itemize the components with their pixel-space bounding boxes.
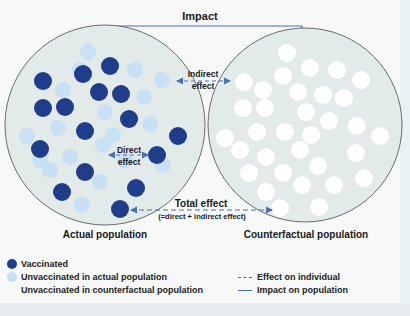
legend-unvaccinated-counterfactual-label: Unvaccinated in counterfactual populatio…	[21, 285, 203, 295]
direct-effect-label-line1: Direct	[117, 145, 141, 155]
actual-population-label: Actual population	[63, 229, 147, 240]
unvaccinated-counterfactual-swatch-icon	[7, 285, 17, 295]
legend-unvaccinated-actual: Unvaccinated in actual population	[7, 272, 167, 282]
legend-effect-on-individual: Effect on individual	[238, 272, 340, 282]
dashed-line-icon	[238, 277, 252, 278]
legend-unvaccinated-actual-label: Unvaccinated in actual population	[21, 272, 167, 282]
indirect-effect-label-line2: effect	[192, 81, 215, 91]
solid-line-icon	[238, 290, 252, 291]
impact-label: Impact	[182, 10, 218, 22]
counterfactual-population-label: Counterfactual population	[244, 229, 368, 240]
actual-population-circle	[5, 25, 205, 225]
unvaccinated-actual-swatch-icon	[7, 272, 17, 282]
total-effect-sublabel: (=direct + indirect effect)	[158, 212, 246, 221]
legend-impact-on-population: Impact on population	[238, 285, 348, 295]
indirect-effect-label-line1: Indirect	[188, 69, 219, 79]
legend-vaccinated: Vaccinated	[7, 259, 68, 269]
direct-effect-label-line2: effect	[118, 157, 141, 167]
legend-effect-on-individual-label: Effect on individual	[257, 272, 340, 282]
counterfactual-population-circle	[208, 28, 402, 222]
vaccinated-swatch-icon	[7, 259, 17, 269]
legend-vaccinated-label: Vaccinated	[21, 259, 68, 269]
legend-unvaccinated-counterfactual: Unvaccinated in counterfactual populatio…	[7, 285, 203, 295]
legend-impact-on-population-label: Impact on population	[257, 285, 348, 295]
total-effect-label: Total effect	[175, 198, 228, 209]
